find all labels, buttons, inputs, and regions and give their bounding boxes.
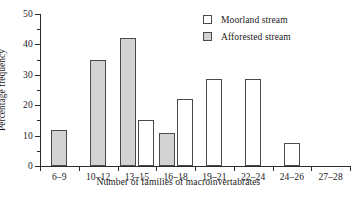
y-tick-label: 10 [23,131,33,141]
x-tick-label: 27–28 [319,172,343,182]
x-tick-mark [311,166,312,171]
x-tick-mark [40,166,41,171]
bar [51,130,67,166]
x-tick-label: 13–15 [125,172,149,182]
x-tick-label: 10–12 [86,172,110,182]
y-tick-mark [35,75,40,76]
x-tick-mark [350,166,351,171]
chart-container: Percentage frequency Number of families … [0,0,357,199]
bar [120,38,136,166]
x-tick-label: 22–24 [241,172,265,182]
y-tick-mark [35,105,40,106]
bar [206,79,222,166]
y-tick-label: 0 [28,161,33,171]
y-minor-tick-mark [37,120,40,121]
plot-area: 01020304050 6–910–1213–1516–1819–2122–24… [40,14,350,166]
x-tick-label: 19–21 [202,172,226,182]
y-tick-mark [35,136,40,137]
bar [177,99,193,166]
x-tick-mark [273,166,274,171]
y-minor-tick-mark [37,151,40,152]
y-tick-mark [35,44,40,45]
y-minor-tick-mark [37,90,40,91]
y-tick-label: 30 [23,70,33,80]
x-tick-label: 24–26 [280,172,304,182]
y-tick-mark [35,14,40,15]
x-tick-mark [118,166,119,171]
bar [138,120,154,166]
y-axis-title: Percentage frequency [0,49,7,131]
x-tick-label: 16–18 [164,172,188,182]
x-tick-mark [195,166,196,171]
y-minor-tick-mark [37,60,40,61]
y-tick-label: 50 [23,9,33,19]
bar [90,60,106,166]
bar [245,79,261,166]
y-axis-line [40,14,41,167]
bar [159,133,175,166]
x-tick-mark [234,166,235,171]
y-tick-label: 40 [23,39,33,49]
x-tick-label: 6–9 [52,172,67,182]
x-tick-mark [156,166,157,171]
x-tick-mark [79,166,80,171]
bar [284,143,300,166]
y-tick-label: 20 [23,100,33,110]
y-minor-tick-mark [37,29,40,30]
